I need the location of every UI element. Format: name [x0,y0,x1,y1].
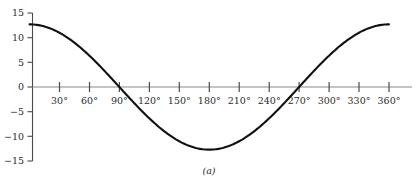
x-tick-label: 330° [348,95,371,106]
y-tick-label: −15 [4,155,24,166]
figure-caption: (a) [202,165,215,176]
chart-figure: 15 10 5 0 −5 −10 −15 30° 60° [0,0,418,180]
y-tick-label: 15 [12,7,24,18]
x-tick-label: 180° [198,95,221,106]
x-tick-label: 240° [258,95,281,106]
x-tick-label: 150° [168,95,191,106]
y-tick-label: 5 [18,57,24,68]
x-tick-label: 120° [138,95,161,106]
x-tick-label: 360° [378,95,401,106]
y-tick-label: −5 [10,106,24,117]
chart-canvas: 15 10 5 0 −5 −10 −15 30° 60° [0,0,418,180]
x-tick-label: 60° [81,95,98,106]
y-tick-label: −10 [4,131,24,142]
x-tick-label: 90° [111,95,128,106]
x-tick-label: 210° [228,95,251,106]
y-tick-label: 10 [12,32,24,43]
x-tick-label: 30° [51,95,68,106]
x-tick-label: 300° [318,95,341,106]
y-tick-label: 0 [18,81,24,92]
